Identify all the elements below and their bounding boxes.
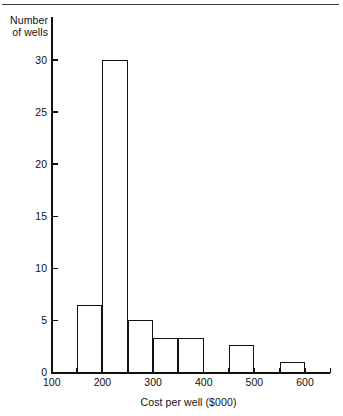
y-tick-label: 20 xyxy=(17,159,47,170)
y-tick-label: 30 xyxy=(17,55,47,66)
y-tick-label: 5 xyxy=(17,315,47,326)
x-tick-label: 100 xyxy=(32,377,72,388)
y-tick-mark xyxy=(53,372,58,373)
y-tick-mark xyxy=(53,59,58,60)
x-tick-label: 500 xyxy=(234,377,274,388)
x-tick-mark xyxy=(51,368,52,373)
histogram-bar xyxy=(128,320,153,374)
x-axis-label-wrap: Cost per well ($000) xyxy=(0,396,343,408)
x-tick-label: 200 xyxy=(82,377,122,388)
histogram-figure: Number of wells 051015202530 10020030040… xyxy=(0,0,343,416)
y-tick-mark xyxy=(53,163,58,164)
histogram-bar xyxy=(178,338,203,374)
x-tick-label: 400 xyxy=(184,377,224,388)
y-tick-mark xyxy=(53,216,58,217)
x-tick-label: 600 xyxy=(285,377,325,388)
y-tick-label: 10 xyxy=(17,263,47,274)
y-tick-mark xyxy=(53,111,58,112)
x-tick-mark xyxy=(330,368,331,373)
plot-area: 051015202530 100200300400500600 xyxy=(0,0,343,416)
y-tick-mark xyxy=(53,320,58,321)
histogram-bar xyxy=(153,338,178,374)
histogram-bar xyxy=(77,305,102,374)
x-tick-label: 300 xyxy=(133,377,173,388)
y-tick-mark xyxy=(53,268,58,269)
y-tick-label: 25 xyxy=(17,107,47,118)
x-axis-label: Cost per well ($000) xyxy=(107,396,237,408)
histogram-bar xyxy=(102,60,127,374)
histogram-bar xyxy=(229,345,254,374)
histogram-bar xyxy=(280,362,305,374)
y-tick-label: 15 xyxy=(17,211,47,222)
